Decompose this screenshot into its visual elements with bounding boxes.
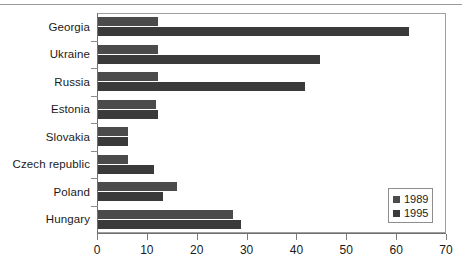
y-axis-category-label: Hungary: [46, 213, 90, 225]
bar-1995: [98, 137, 128, 146]
bar-1995: [98, 220, 241, 229]
bar-1989: [98, 17, 158, 26]
x-axis-tick-label: 50: [340, 243, 353, 257]
y-axis-category-label: Ukraine: [50, 48, 90, 60]
x-axis-tick-label: 30: [240, 243, 253, 257]
x-axis-tick: [197, 234, 198, 240]
bar-chart-figure: GeorgiaUkraineRussiaEstoniaSlovakiaCzech…: [0, 0, 462, 273]
x-axis-tick: [97, 234, 98, 240]
x-axis-tick: [346, 234, 347, 240]
y-axis-tick: [91, 123, 98, 124]
legend-label-1989: 1989: [404, 194, 428, 205]
category-row: Czech republic: [0, 151, 462, 179]
x-axis-tick-label: 20: [190, 243, 203, 257]
x-axis-tick-label: 10: [140, 243, 153, 257]
bar-1989: [98, 100, 156, 109]
y-axis-category-label: Czech republic: [13, 158, 90, 170]
y-axis-tick: [91, 151, 98, 152]
x-axis-tick: [446, 234, 447, 240]
legend-label-1995: 1995: [404, 208, 428, 219]
bar-1995: [98, 165, 154, 174]
bar-1995: [98, 27, 409, 36]
x-axis-tick: [396, 234, 397, 240]
y-axis-category-label: Russia: [54, 76, 90, 88]
x-axis-tick-label: 40: [290, 243, 303, 257]
bar-1995: [98, 192, 163, 201]
bar-1989: [98, 127, 128, 136]
bar-1989: [98, 72, 158, 81]
category-row: Russia: [0, 68, 462, 96]
y-axis-category-label: Poland: [54, 186, 90, 198]
chart-legend: 1989 1995: [388, 188, 433, 223]
bar-1989: [98, 182, 177, 191]
x-axis-tick: [147, 234, 148, 240]
x-axis-tick-label: 60: [389, 243, 402, 257]
bar-1989: [98, 45, 158, 54]
legend-swatch-icon-1989: [393, 196, 400, 203]
legend-item-1989: 1989: [393, 192, 428, 206]
legend-swatch-icon-1995: [393, 210, 400, 217]
x-axis-tick-label: 0: [94, 243, 101, 257]
y-axis-category-label: Georgia: [48, 21, 90, 33]
top-divider-rule: [0, 4, 462, 5]
y-axis-tick: [91, 41, 98, 42]
bar-1989: [98, 210, 233, 219]
y-axis-category-label: Estonia: [51, 103, 90, 115]
x-axis-tick: [247, 234, 248, 240]
category-row: Ukraine: [0, 41, 462, 69]
bar-1995: [98, 55, 320, 64]
y-axis-tick: [91, 178, 98, 179]
y-axis-tick: [91, 68, 98, 69]
y-axis-tick: [91, 96, 98, 97]
x-axis-tick-label: 70: [439, 243, 452, 257]
legend-item-1995: 1995: [393, 206, 428, 220]
y-axis-tick: [91, 206, 98, 207]
bar-1995: [98, 110, 158, 119]
category-row: Estonia: [0, 96, 462, 124]
y-axis-category-label: Slovakia: [46, 131, 90, 143]
bar-1989: [98, 155, 128, 164]
category-row: Slovakia: [0, 123, 462, 151]
x-axis-line: [97, 233, 446, 234]
x-axis-tick: [296, 234, 297, 240]
bar-1995: [98, 82, 305, 91]
category-row: Georgia: [0, 13, 462, 41]
